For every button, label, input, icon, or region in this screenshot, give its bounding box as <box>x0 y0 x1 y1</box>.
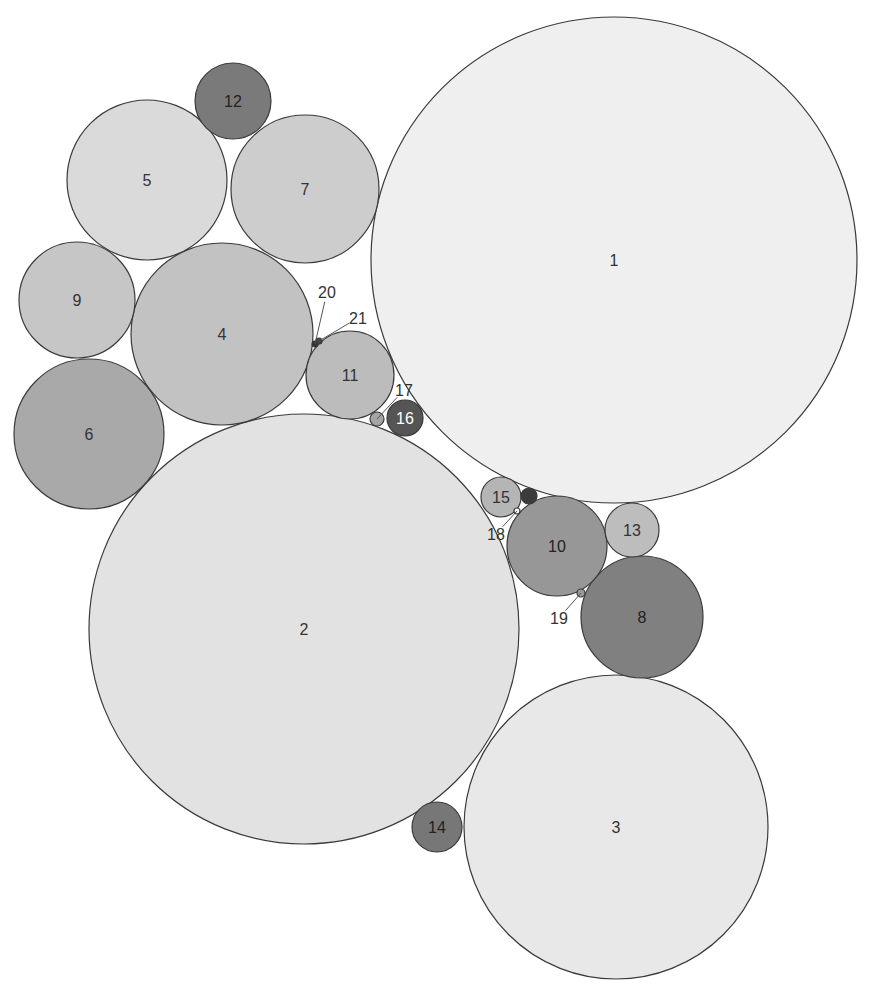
circle-label: 10 <box>548 538 566 555</box>
circle-label: 7 <box>301 181 310 198</box>
circle-label: 20 <box>318 284 336 301</box>
circle-label: 3 <box>612 819 621 836</box>
circle-label: 13 <box>623 522 641 539</box>
circle-label: 5 <box>143 172 152 189</box>
circle-label: 15 <box>492 489 510 506</box>
circle-label: 8 <box>638 609 647 626</box>
circle-label: 11 <box>342 367 359 384</box>
circle-label: 12 <box>224 93 242 110</box>
circle-label: 1 <box>610 252 619 269</box>
circle-label: 19 <box>550 610 568 627</box>
packed-circle-chart: 123456789101112131415161718192021 <box>0 0 873 986</box>
circle-shape <box>521 488 537 504</box>
circle-label: 14 <box>428 819 446 836</box>
circle-label: 21 <box>349 310 367 327</box>
leader-line <box>566 593 581 610</box>
circle-label: 6 <box>85 426 94 443</box>
circle-label: 16 <box>396 410 414 427</box>
circle-label: 18 <box>487 526 505 543</box>
circle-label: 17 <box>395 382 413 399</box>
circle-label: 9 <box>73 292 82 309</box>
circle-label: 2 <box>300 621 309 638</box>
circle-unlabeled <box>521 488 537 504</box>
circle-label: 4 <box>218 326 227 343</box>
